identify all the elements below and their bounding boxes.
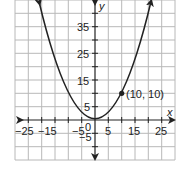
x-axis-label: x: [166, 106, 173, 118]
x-tick-25: 25: [155, 125, 167, 137]
y-tick-25: 25: [77, 48, 89, 60]
x-tick-neg15: −15: [38, 125, 57, 137]
parabola-graph: (10, 10) y x 0 35 25 15 5 −5 −25 −15 −5 …: [0, 0, 184, 169]
point-marker: [119, 91, 124, 96]
x-tick-neg25: −25: [15, 125, 34, 137]
x-tick-5: 5: [105, 125, 111, 137]
x-tick-neg5: −5: [72, 125, 85, 137]
y-axis-label: y: [98, 0, 106, 12]
y-tick-5: 5: [84, 101, 90, 113]
y-tick-35: 35: [77, 21, 89, 33]
y-tick-15: 15: [77, 75, 89, 87]
point-label: (10, 10): [126, 88, 164, 100]
x-tick-15: 15: [128, 125, 140, 137]
